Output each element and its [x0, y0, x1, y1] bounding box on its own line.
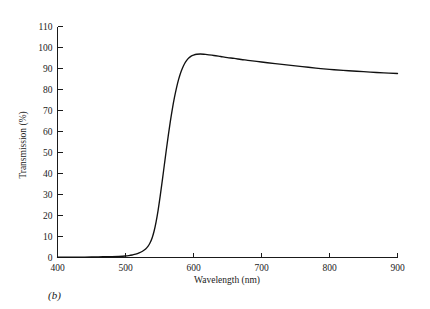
y-tick-label: 30: [43, 190, 53, 200]
y-axis-title: Transmission (%): [18, 111, 29, 178]
y-tick-label: 100: [38, 43, 53, 53]
y-tick-label: 50: [43, 148, 53, 158]
y-tick-label: 60: [43, 127, 53, 137]
figure-panel: 400500600700800900 010203040506070809010…: [0, 0, 430, 309]
x-tick-label: 900: [390, 263, 405, 273]
plot-axes: [58, 27, 398, 258]
axis-lines: [58, 27, 398, 258]
y-tick-label: 10: [43, 232, 53, 242]
panel-caption: (b): [48, 289, 61, 302]
x-axis-tick-labels: 400500600700800900: [50, 263, 405, 273]
y-axis-ticks: [58, 27, 63, 258]
x-tick-label: 400: [50, 263, 65, 273]
y-tick-label: 90: [43, 64, 53, 74]
x-tick-label: 700: [254, 263, 269, 273]
y-tick-label: 110: [39, 22, 53, 32]
x-tick-label: 500: [118, 263, 133, 273]
y-tick-label: 20: [43, 211, 53, 221]
transmission-spectrum-chart: 400500600700800900 010203040506070809010…: [0, 0, 430, 309]
transmission-curve: [58, 54, 398, 257]
y-tick-label: 40: [43, 169, 53, 179]
x-axis-title: Wavelength (nm): [194, 275, 260, 286]
y-axis-tick-labels: 0102030405060708090100110: [38, 22, 53, 263]
x-tick-label: 600: [186, 263, 201, 273]
y-tick-label: 80: [43, 85, 53, 95]
y-tick-label: 70: [43, 106, 53, 116]
x-tick-label: 800: [322, 263, 337, 273]
y-tick-label: 0: [48, 253, 53, 263]
